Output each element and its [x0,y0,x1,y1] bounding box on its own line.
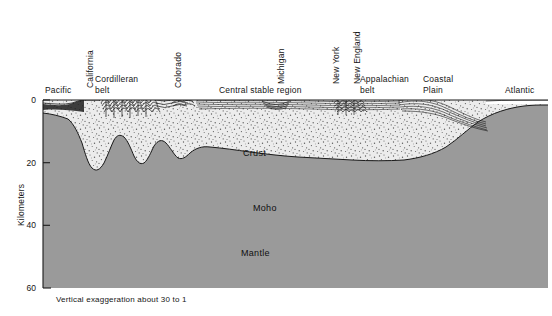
label-cordilleran-belt: belt [95,85,110,95]
axis-title-kilometers: Kilometers [16,184,26,226]
axis-tick-0: 0 [20,95,36,105]
label-moho: Moho [251,203,279,213]
label-colorado: Colorado [173,52,183,88]
label-coastal: Coastal [423,74,453,84]
label-coastal-plain: Plain [423,85,443,95]
label-appalachian-belt: belt [360,85,375,95]
mantle-region [43,100,548,288]
geologic-cross-section-figure: 0 20 40 60 Kilometers Pacific California… [0,0,552,316]
axis-tick-60: 60 [20,283,36,293]
label-michigan: Michigan [276,48,286,84]
colorado-uplift [172,95,192,100]
label-appalachian: Appalachian [360,74,409,84]
label-california: California [85,50,95,88]
axis-tick-20: 20 [20,158,36,168]
label-crust: Crust [243,148,266,158]
figure-caption: Vertical exaggeration about 30 to 1 [56,295,187,304]
label-cordilleran: Cordilleran [95,74,138,84]
label-central-stable-region: Central stable region [219,85,302,95]
label-pacific: Pacific [45,85,71,95]
label-mantle: Mantle [241,248,270,258]
label-new-york: New York [331,46,341,84]
label-atlantic: Atlantic [505,85,534,95]
